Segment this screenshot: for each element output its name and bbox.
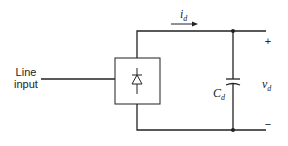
line-input-label-line2: input (14, 78, 38, 90)
diode-icon (132, 68, 142, 94)
positive-dc-rail (137, 31, 266, 58)
rectifier-circuit-diagram: Line input id Cd vd + − (0, 0, 288, 146)
capacitor-label: Cd (213, 86, 226, 102)
negative-dc-rail (137, 104, 266, 130)
minus-terminal-sign: − (265, 118, 271, 130)
voltage-label: vd (262, 77, 272, 93)
current-label: id (180, 7, 188, 23)
line-input-label-line1: Line (16, 66, 37, 78)
bottom-junction-dot (231, 128, 235, 132)
plus-terminal-sign: + (265, 35, 271, 47)
capacitor-icon (226, 31, 240, 130)
top-junction-dot (231, 29, 235, 33)
